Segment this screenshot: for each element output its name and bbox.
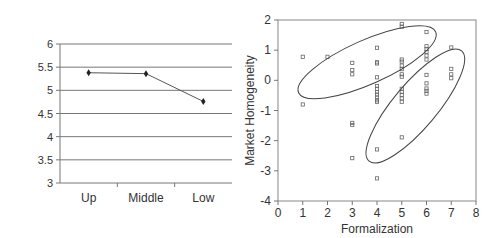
scatter-point [425,82,428,85]
x-axis-title: Formalization [341,222,413,236]
x-tick-label: 0 [275,206,282,220]
y-tick-label: -4 [260,194,271,208]
scatter-point [425,54,428,57]
scatter-point [301,103,304,106]
scatter-chart: -4-3-2-1012012345678FormalizationMarket … [0,0,496,238]
x-tick-label: 8 [473,206,480,220]
scatter-point [400,100,403,103]
scatter-point [425,30,428,33]
x-tick-label: 7 [448,206,455,220]
scatter-point [375,148,378,151]
scatter-point [400,60,403,63]
plot-frame [278,20,476,201]
scatter-point [351,61,354,64]
x-tick-label: 5 [398,206,405,220]
scatter-point [351,73,354,76]
x-tick-label: 4 [374,206,381,220]
cluster-ellipse-upper [290,12,445,113]
y-tick-label: -1 [260,104,271,118]
scatter-point [450,73,453,76]
scatter-point [375,177,378,180]
scatter-point [400,58,403,61]
x-tick-label: 1 [299,206,306,220]
y-tick-label: 0 [264,73,271,87]
scatter-point [450,77,453,80]
y-tick-label: -2 [260,134,271,148]
scatter-point [400,136,403,139]
x-tick-label: 2 [324,206,331,220]
cluster-ellipse-lower [352,37,478,176]
scatter-point [351,123,354,126]
y-tick-label: -3 [260,164,271,178]
scatter-point [375,46,378,49]
scatter-point [450,67,453,70]
scatter-point [425,73,428,76]
y-tick-label: 1 [264,43,271,57]
x-tick-label: 6 [423,206,430,220]
scatter-point [425,58,428,61]
y-axis-title: Market Homogeneity [243,55,257,166]
scatter-point [450,46,453,49]
scatter-point [400,97,403,100]
scatter-point [375,76,378,79]
scatter-point [301,55,304,58]
scatter-point [351,68,354,71]
scatter-point [351,121,354,124]
scatter-point [400,64,403,67]
y-tick-label: 2 [264,13,271,27]
x-tick-label: 3 [349,206,356,220]
scatter-point [351,157,354,160]
